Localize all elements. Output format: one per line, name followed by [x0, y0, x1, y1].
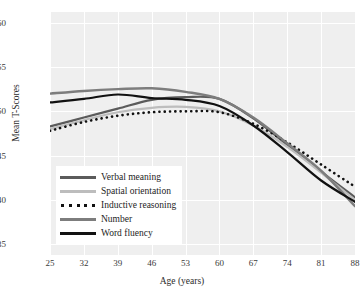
y-tick-label: 35 [0, 240, 6, 249]
x-axis-label: Age (years) [0, 276, 364, 286]
legend-swatch-icon [60, 184, 96, 198]
legend-label: Verbal meaning [101, 171, 161, 183]
legend-item-word-fluency[interactable]: Word fluency [60, 226, 176, 240]
y-tick-label: 55 [0, 63, 6, 72]
x-tick-label: 60 [204, 258, 234, 268]
x-tick-label: 88 [340, 258, 364, 268]
chart-figure: 605550454035 25323946536067748188 Mean T… [0, 0, 364, 303]
legend-swatch-icon [60, 212, 96, 226]
legend-item-number[interactable]: Number [60, 212, 176, 226]
legend-label: Spatial orientation [101, 185, 171, 197]
x-tick-label: 46 [137, 258, 167, 268]
y-tick-label: 60 [0, 19, 6, 28]
y-tick-label: 40 [0, 196, 6, 205]
chart-legend: Verbal meaningSpatial orientationInducti… [56, 166, 182, 244]
legend-label: Inductive reasoning [101, 199, 176, 211]
y-tick-label: 50 [0, 107, 6, 116]
legend-item-verbal-meaning[interactable]: Verbal meaning [60, 170, 176, 184]
legend-label: Word fluency [101, 227, 153, 239]
x-tick-label: 67 [238, 258, 268, 268]
y-tick-label: 45 [0, 152, 6, 161]
legend-label: Number [101, 213, 132, 225]
legend-swatch-icon [60, 170, 96, 184]
y-axis-label: Mean T-Scores [11, 53, 21, 173]
x-tick-label: 25 [35, 258, 65, 268]
legend-item-spatial-orientation[interactable]: Spatial orientation [60, 184, 176, 198]
x-tick-label: 39 [103, 258, 133, 268]
x-tick-label: 32 [69, 258, 99, 268]
legend-item-inductive-reasoning[interactable]: Inductive reasoning [60, 198, 176, 212]
x-tick-label: 53 [171, 258, 201, 268]
x-tick-label: 74 [272, 258, 302, 268]
legend-swatch-icon [60, 198, 96, 212]
legend-swatch-icon [60, 226, 96, 240]
x-tick-label: 81 [306, 258, 336, 268]
